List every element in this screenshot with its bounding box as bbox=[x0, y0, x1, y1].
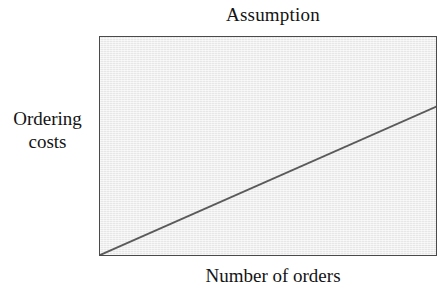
plot-canvas bbox=[100, 37, 436, 255]
ordering-costs-trend-line bbox=[100, 107, 436, 255]
x-axis-label: Number of orders bbox=[99, 264, 441, 288]
y-axis-label: Ordering costs bbox=[0, 107, 95, 153]
plot-area bbox=[99, 36, 437, 256]
chart-title: Assumption bbox=[99, 3, 441, 27]
y-axis-label-line-1: Ordering bbox=[0, 107, 95, 130]
chart-figure: Assumption Ordering costs Number of orde… bbox=[0, 0, 441, 292]
y-axis-label-line-2: costs bbox=[0, 130, 95, 153]
